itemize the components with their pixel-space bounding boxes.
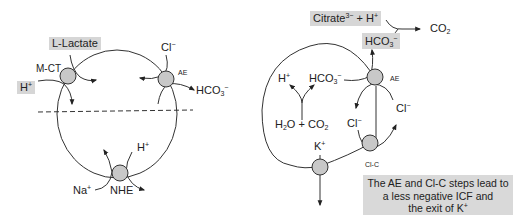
lactate-label: L-Lactate <box>49 37 101 50</box>
note-line-1: The AE and Cl-C steps lead to <box>363 177 513 190</box>
note-line-2: a less negative ICF and <box>363 190 513 203</box>
hco3-in-label: HCO3− <box>309 72 341 85</box>
h2o-co2-label: H2O + CO2 <box>275 118 328 131</box>
co2-arrow <box>386 20 420 29</box>
cl-left-label: Cl− <box>347 117 361 130</box>
clc-label: Cl-C <box>365 158 379 171</box>
ae-label: AE <box>178 66 187 79</box>
k-label: K+ <box>314 140 325 153</box>
h-right-label: H+ <box>278 72 290 85</box>
ae-transporter-icon <box>158 71 174 87</box>
na-label: Na+ <box>73 184 91 197</box>
hco3-box-label: HCO3− <box>362 33 400 49</box>
note-line-3: the exit of K+ <box>363 202 513 215</box>
citrate-label: Citrate3− + H+ <box>310 11 381 26</box>
left-cell-membrane <box>57 50 177 178</box>
clc-transporter-icon <box>362 135 378 151</box>
ae-right-label: AE <box>390 72 399 85</box>
summary-note: The AE and Cl-C steps lead to a less neg… <box>363 175 513 215</box>
hco3-split-arrow <box>302 85 314 103</box>
divider-dashed-line <box>38 110 193 112</box>
co2-out-label: CO2 <box>430 22 450 35</box>
mct-transporter-icon <box>60 68 76 84</box>
cl-label: Cl− <box>161 41 175 54</box>
cl-right-label: Cl− <box>396 102 410 115</box>
k-channel-icon <box>312 159 328 175</box>
hco3-label: HCO3− <box>196 84 228 97</box>
cl-in-ae-arrow <box>356 84 393 108</box>
ae-transporter-icon <box>367 69 383 85</box>
h-left-label: H+ <box>17 81 35 94</box>
nhe-label: NHE <box>110 184 133 197</box>
h-split-arrow <box>290 85 302 120</box>
nhe-transporter-icon <box>112 165 128 181</box>
mct-label: M-CT <box>36 62 61 75</box>
h-nhe-label: H+ <box>137 141 149 154</box>
